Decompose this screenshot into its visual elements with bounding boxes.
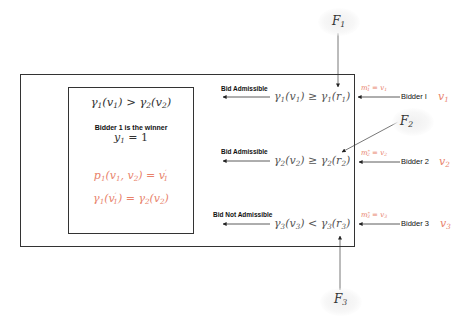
bidder-1-label: Bidder I (401, 92, 427, 101)
winner-label: Bidder 1 is the winner (68, 124, 194, 131)
equality-equation: γ1(v′1) = γ2(v2) (68, 192, 194, 205)
f1-label: F1 (332, 14, 345, 28)
bidder-3-label: Bidder 3 (401, 219, 429, 228)
row1-condition: γ1(v1) ≥ γ1(r1) (274, 90, 350, 103)
row1-message: m*1 = v1 (361, 84, 387, 92)
bidder-2-value: v2 (439, 155, 450, 168)
row1-status: Bid Admissible (221, 85, 268, 92)
row2-status: Bid Admissible (221, 148, 268, 155)
bidder-2-label: Bidder 2 (401, 157, 429, 166)
row3-message: m*3 = v3 (361, 211, 387, 219)
bidder-1-value: v1 (438, 90, 449, 103)
row2-message: m*2 = v2 (361, 149, 387, 157)
bidder-3-value: v3 (440, 217, 451, 230)
winner-box (68, 87, 194, 234)
winner-comparison: γ1(v1) > γ2(v2) (68, 95, 194, 109)
row2-condition: γ2(v2) ≥ γ2(r2) (274, 154, 350, 167)
row3-condition: γ3(v3) < γ3(r3) (274, 217, 350, 230)
row3-status: Bid Not Admissible (213, 211, 272, 218)
winner-equation: y1 = 1 (68, 131, 194, 144)
f3-label: F3 (334, 292, 347, 306)
price-equation: p1(v1, v2) = v′1 (68, 169, 194, 182)
f2-label: F2 (400, 114, 413, 128)
